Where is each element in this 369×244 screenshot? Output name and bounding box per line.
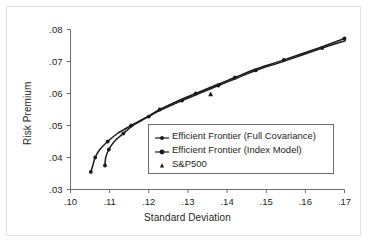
x-tick-label: .16 bbox=[292, 196, 318, 207]
y-tick-label: .08 bbox=[41, 24, 63, 35]
x-tick-label: .15 bbox=[253, 196, 279, 207]
x-axis-label: Standard Deviation bbox=[144, 212, 231, 223]
legend-item: Efficient Frontier (Full Covariance) bbox=[149, 129, 333, 143]
legend-label: S&P500 bbox=[172, 158, 207, 170]
legend-label: Efficient Frontier (Index Model) bbox=[172, 144, 302, 156]
chart-figure: .03.04.05.06.07.08 .10.11.12.13.14.15.16… bbox=[0, 0, 369, 244]
chart-legend: Efficient Frontier (Full Covariance) Eff… bbox=[148, 124, 334, 174]
y-tick-label: .05 bbox=[41, 120, 63, 131]
legend-item: Efficient Frontier (Index Model) bbox=[149, 143, 333, 157]
x-tick-label: .12 bbox=[136, 196, 162, 207]
triangle-icon bbox=[154, 158, 172, 170]
x-tick-label: .17 bbox=[332, 196, 358, 207]
x-tick-label: .13 bbox=[175, 196, 201, 207]
x-tick-label: .11 bbox=[97, 196, 123, 207]
x-tick-label: .14 bbox=[214, 196, 240, 207]
line-dot-icon bbox=[154, 130, 172, 142]
y-tick-label: .06 bbox=[41, 88, 63, 99]
legend-item: S&P500 bbox=[149, 157, 333, 171]
y-tick-label: .03 bbox=[41, 184, 63, 195]
y-tick-label: .07 bbox=[41, 56, 63, 67]
sp500-marker bbox=[208, 92, 213, 97]
x-tick-label: .10 bbox=[58, 196, 84, 207]
line-dot-icon bbox=[154, 144, 172, 156]
legend-label: Efficient Frontier (Full Covariance) bbox=[172, 130, 316, 142]
scatter-points bbox=[208, 92, 213, 97]
y-axis-label: Risk Premium bbox=[22, 82, 33, 145]
y-tick-label: .04 bbox=[41, 152, 63, 163]
